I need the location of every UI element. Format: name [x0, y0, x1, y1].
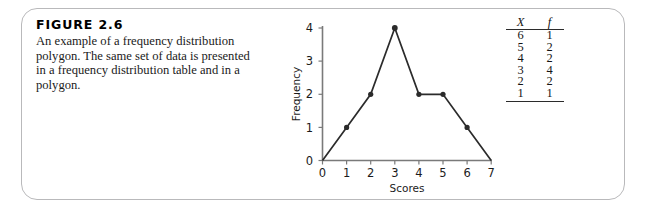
cell-x: 1	[506, 88, 535, 101]
data-point-markers	[344, 25, 470, 130]
table-row: 3 4	[506, 65, 564, 77]
table-row: 1 1	[506, 88, 564, 101]
y-tick-label-4: 4	[306, 21, 313, 35]
x-tick-label-2: 2	[367, 166, 374, 180]
table-row: 2 2	[506, 76, 564, 88]
table-row: 5 2	[506, 42, 564, 54]
data-point-marker	[392, 25, 398, 31]
x-tick-label-1: 1	[343, 166, 350, 180]
y-tick-label-3: 3	[306, 54, 313, 68]
data-point-marker	[440, 92, 445, 97]
x-tick-label-7: 7	[488, 166, 495, 180]
data-point-marker	[368, 92, 373, 97]
x-tick-label-4: 4	[415, 166, 422, 180]
y-axis-title: Frequency	[290, 67, 302, 121]
frequency-polygon-line	[323, 28, 492, 161]
data-point-marker	[465, 125, 470, 130]
frequency-polygon-chart: 0 1 2 3 4 0 1 2 3 4 5 6 7 Scores Frequen…	[288, 12, 518, 197]
x-tick-label-6: 6	[463, 166, 470, 180]
x-axis-title: Scores	[390, 182, 425, 194]
figure-caption-text: An example of a frequency distribution p…	[36, 34, 251, 92]
x-tick-label-0: 0	[319, 166, 326, 180]
figure-number-label: FIGURE 2.6	[36, 17, 251, 32]
y-tick-label-2: 2	[306, 87, 313, 101]
y-tick-label-0: 0	[306, 154, 313, 168]
chart-svg: 0 1 2 3 4 0 1 2 3 4 5 6 7 Scores Frequen…	[288, 12, 518, 197]
table-row: 6 1	[506, 30, 564, 42]
caption-block: FIGURE 2.6 An example of a frequency dis…	[36, 17, 251, 92]
x-tick-label-5: 5	[439, 166, 446, 180]
x-tick-label-3: 3	[391, 166, 398, 180]
figure-page: FIGURE 2.6 An example of a frequency dis…	[0, 0, 651, 215]
frequency-distribution-table: X f 6 1 5 2 4 2 3 4	[506, 16, 568, 102]
table-header-row: X f	[506, 16, 564, 30]
cell-f: 1	[535, 88, 564, 101]
y-tick-label-1: 1	[306, 121, 313, 135]
table-row: 4 2	[506, 53, 564, 65]
data-point-marker	[416, 92, 421, 97]
data-point-marker	[344, 125, 349, 130]
